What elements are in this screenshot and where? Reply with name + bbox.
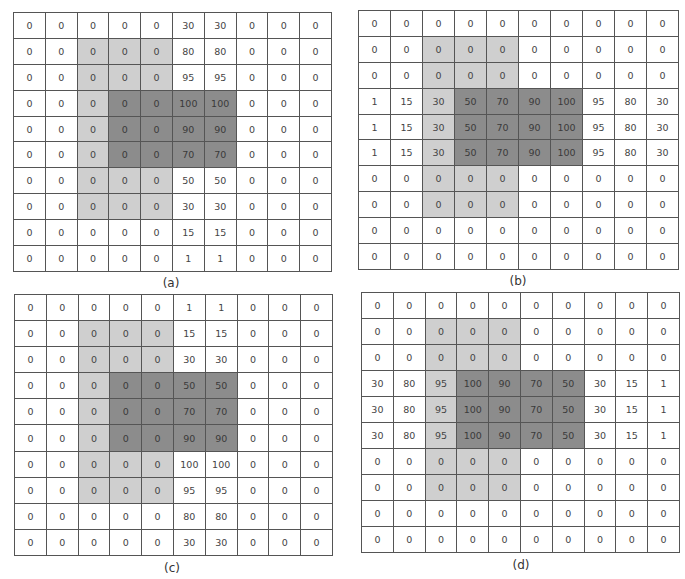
grid-cell: 0: [109, 90, 141, 116]
grid-cell: 50: [455, 114, 487, 140]
grid-cell: 0: [142, 373, 174, 399]
grid-cell: 1: [359, 114, 391, 140]
grid-cell: 0: [78, 503, 110, 529]
grid-cell: 0: [583, 36, 615, 62]
grid-row: 000003030000: [14, 13, 332, 39]
grid-cell: 0: [301, 425, 333, 451]
grid-cell: 100: [173, 451, 205, 477]
grid-cell: 90: [489, 371, 521, 397]
grid-cell: 0: [616, 527, 648, 553]
grid-row: 0000000000: [359, 192, 679, 218]
grid-cell: 0: [268, 90, 300, 116]
grid-cell: 0: [110, 477, 142, 503]
grid-cell: 0: [615, 166, 647, 192]
grid-row: 000003030000: [15, 529, 333, 555]
grid-cell: 50: [173, 373, 205, 399]
grid-cell: 0: [520, 475, 552, 501]
grid-cell: 0: [45, 90, 77, 116]
grid-cell: 0: [616, 449, 648, 475]
grid-row: 000007070000: [15, 399, 333, 425]
grid-cell: 80: [172, 38, 204, 64]
grid-cell: 0: [237, 321, 269, 347]
grid-cell: 0: [45, 194, 77, 220]
grid-cell: 0: [455, 192, 487, 218]
grid-cell: 1: [648, 423, 680, 449]
grid-cell: 0: [616, 319, 648, 345]
grid-cell: 30: [584, 397, 616, 423]
grid-cell: 0: [487, 166, 519, 192]
grid-cell: 0: [46, 425, 78, 451]
grid-cell: 0: [78, 347, 110, 373]
grid-cell: 30: [647, 140, 679, 166]
grid-cell: 0: [489, 475, 521, 501]
grid-cell: 0: [457, 527, 489, 553]
grid-cell: 0: [301, 321, 333, 347]
grid-row: 000009595000: [14, 64, 332, 90]
grid-cell: 0: [268, 246, 300, 272]
grid-cell: 0: [583, 192, 615, 218]
grid-cell: 0: [457, 293, 489, 319]
grid-cell: 0: [14, 38, 46, 64]
grid-cell: 0: [362, 475, 394, 501]
grid-cell: 0: [15, 373, 47, 399]
grid-cell: 0: [584, 293, 616, 319]
grid-cell: 80: [393, 371, 425, 397]
grid-cell: 0: [78, 399, 110, 425]
grid-row: 0000011000: [15, 295, 333, 321]
grid-cell: 90: [489, 397, 521, 423]
grid-cell: 0: [393, 319, 425, 345]
grid-cell: 0: [583, 166, 615, 192]
grid-cell: 0: [584, 501, 616, 527]
grid-cell: 30: [423, 88, 455, 114]
grid-cell: 0: [489, 449, 521, 475]
grid-cell: 0: [77, 64, 109, 90]
grid-row: 0000000000: [362, 319, 680, 345]
grid-cell: 0: [142, 295, 174, 321]
grid-cell: 0: [46, 529, 78, 555]
grid-cell: 0: [110, 451, 142, 477]
grid-row: 0000000000: [362, 475, 680, 501]
grid-cell: 30: [584, 423, 616, 449]
grid-cell: 0: [487, 244, 519, 270]
grid-cell: 95: [583, 114, 615, 140]
grid-cell: 0: [46, 477, 78, 503]
grid-cell: 0: [552, 319, 584, 345]
grid-cell: 80: [615, 114, 647, 140]
grid-cell: 0: [77, 246, 109, 272]
grid-cell: 0: [77, 168, 109, 194]
grid-row: 00000100100000: [15, 451, 333, 477]
grid-cell: 0: [393, 293, 425, 319]
grid-cell: 0: [359, 166, 391, 192]
grid-cell: 0: [142, 399, 174, 425]
grid-cell: 0: [77, 90, 109, 116]
grid-cell: 0: [77, 116, 109, 142]
grid-cell: 1: [648, 371, 680, 397]
grid-cell: 0: [616, 345, 648, 371]
grid-cell: 0: [14, 90, 46, 116]
grid-cell: 0: [647, 11, 679, 37]
grid-cell: 80: [615, 88, 647, 114]
grid-cell: 1: [359, 88, 391, 114]
grid-cell: 0: [300, 13, 332, 39]
grid-cell: 70: [172, 142, 204, 168]
grid-cell: 0: [359, 62, 391, 88]
grid-cell: 95: [173, 477, 205, 503]
grid-cell: 0: [552, 345, 584, 371]
grid-cell: 0: [648, 319, 680, 345]
grid-cell: 0: [15, 503, 47, 529]
grid-cell: 0: [425, 319, 457, 345]
grid-cell: 0: [487, 62, 519, 88]
panel-a: 0000030300000000080800000000095950000000…: [13, 12, 332, 272]
grid-cell: 0: [519, 62, 551, 88]
grid-cell: 0: [423, 192, 455, 218]
grid-cell: 0: [141, 168, 173, 194]
grid-cell: 0: [269, 295, 301, 321]
grid-cell: 0: [584, 475, 616, 501]
grid-cell: 0: [300, 168, 332, 194]
grid-cell: 0: [46, 321, 78, 347]
grid-cell: 70: [520, 371, 552, 397]
grid-cell: 0: [519, 11, 551, 37]
grid-cell: 0: [269, 529, 301, 555]
grid-cell: 0: [110, 503, 142, 529]
grid-cell: 70: [173, 399, 205, 425]
